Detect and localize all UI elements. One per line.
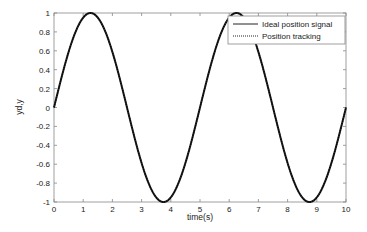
legend: Ideal position signal Position tracking (228, 16, 345, 44)
x-tick-label: 0 (52, 205, 57, 214)
legend-item-tracking: Position tracking (262, 32, 321, 41)
x-tick-label: 1 (81, 205, 86, 214)
line-chart: 10.80.60.40.20-0.2-0.4-0.6-0.8-1 0123456… (0, 0, 367, 232)
y-tick-label: 0.2 (39, 85, 51, 94)
legend-item-ideal: Ideal position signal (262, 20, 332, 29)
y-tick-label: -0.4 (36, 141, 50, 150)
y-tick-label: 0.8 (39, 28, 51, 37)
x-axis-label: time(s) (187, 212, 213, 222)
y-tick-label: 0 (46, 104, 51, 113)
y-tick-label: -0.2 (36, 122, 50, 131)
y-tick-label: -1 (43, 198, 51, 207)
x-tick-label: 6 (227, 205, 232, 214)
y-tick-label: 1 (46, 9, 51, 18)
x-tick-label: 10 (342, 205, 351, 214)
y-tick-label: -0.8 (36, 179, 50, 188)
y-axis-label: yd,y (14, 98, 24, 114)
x-tick-label: 4 (169, 205, 174, 214)
y-tick-label: 0.4 (39, 66, 51, 75)
x-tick-label: 7 (256, 205, 261, 214)
y-tick-label: 0.6 (39, 47, 51, 56)
x-tick-label: 8 (285, 205, 290, 214)
x-tick-label: 2 (110, 205, 115, 214)
x-tick-label: 9 (315, 205, 320, 214)
x-tick-label: 3 (139, 205, 144, 214)
y-tick-label: -0.6 (36, 160, 50, 169)
